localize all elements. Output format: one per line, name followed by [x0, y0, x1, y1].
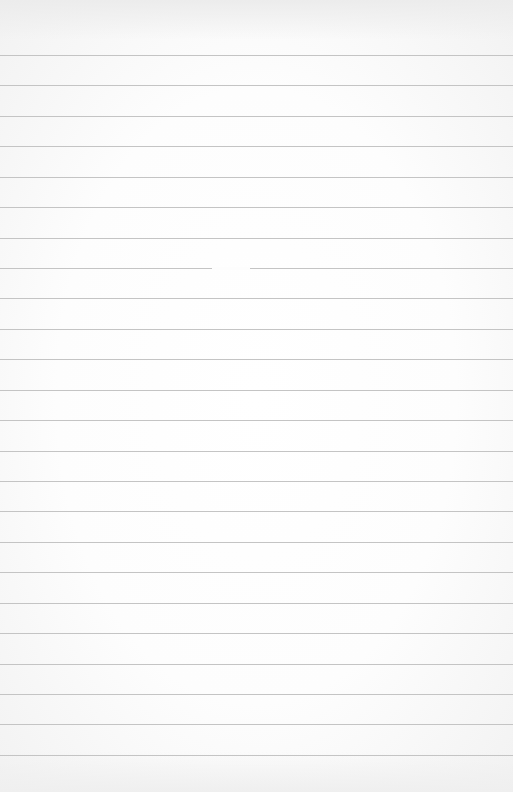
ruled-line	[0, 146, 513, 147]
ruled-line	[0, 207, 513, 208]
paper-bottom-edge	[0, 752, 513, 792]
ruled-line	[0, 724, 513, 725]
ruled-line	[0, 481, 513, 482]
lined-paper-sheet	[0, 0, 513, 792]
ruled-line	[0, 329, 513, 330]
ruled-line	[0, 694, 513, 695]
paper-top-edge	[0, 0, 513, 40]
ruled-line	[0, 755, 513, 756]
rule-gap	[212, 267, 250, 270]
ruled-line	[0, 55, 513, 56]
ruled-line	[0, 359, 513, 360]
ruled-line	[0, 390, 513, 391]
ruled-line	[0, 420, 513, 421]
ruled-line	[0, 116, 513, 117]
ruled-line	[0, 511, 513, 512]
ruled-line	[0, 85, 513, 86]
ruled-line	[0, 542, 513, 543]
ruled-line	[0, 177, 513, 178]
ruled-line	[0, 238, 513, 239]
ruled-line	[0, 572, 513, 573]
ruled-line	[0, 664, 513, 665]
ruled-line	[0, 633, 513, 634]
ruled-line	[0, 268, 513, 269]
ruled-line	[0, 451, 513, 452]
ruled-line	[0, 603, 513, 604]
ruled-line	[0, 298, 513, 299]
